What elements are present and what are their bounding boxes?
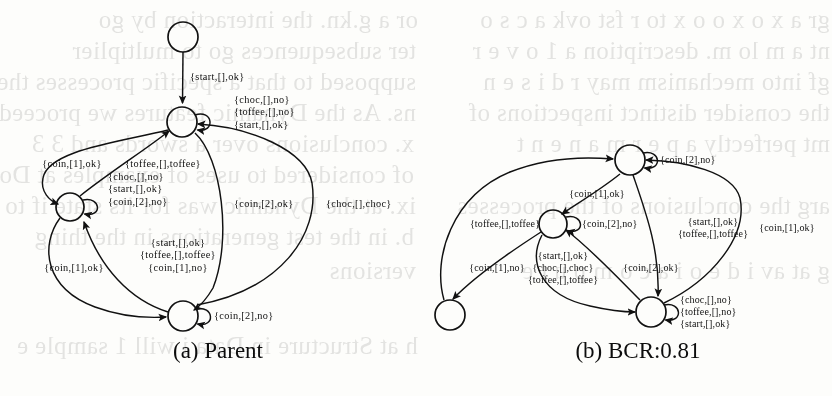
figure-caption-b: (b) BCR:0.81 <box>575 338 700 364</box>
transition-label-b-top-selfloop: {coin,[2],no} <box>660 154 715 166</box>
transition-label-b-coin1-ok-top: {coin,[1],ok} <box>569 188 624 200</box>
transition-label-b-coin2-ok: {coin,[2],ok} <box>623 262 678 274</box>
figure-page: or a g.kn. the interaction by goter subs… <box>0 0 832 396</box>
transition-label-line: {coin,[1],ok} <box>569 188 624 200</box>
transition-label-a-left-selfloop: {choc,[],no}{start,[],ok}{coin,[2],no} <box>108 171 168 208</box>
transition-label-line: {coin,[1],ok} <box>42 158 102 170</box>
transition-label-a-coin1-ok-lower: {coin,[1],ok} <box>44 262 104 274</box>
transition-label-b-start-toffee-right: {start,[],ok}{toffee,[],toffee} <box>678 216 748 240</box>
state-node-a-left <box>56 193 84 221</box>
transition-label-line: {choc,[],no} <box>108 171 168 183</box>
transition-label-line: {toffee,[],toffee} <box>140 250 216 262</box>
transition-label-line: {coin,[1],no} <box>140 262 216 274</box>
transition-label-b-middle-to-br: {start,[],ok}{choc,[],choc}{toffee,[],to… <box>528 250 598 286</box>
transition-label-a-coin2-ok: {coin,[2],ok} <box>234 198 294 210</box>
transition-label-line: {coin,[2],ok} <box>234 198 294 210</box>
transition-label-line: {toffee,[],toffee} <box>678 228 748 240</box>
transition-label-line: {choc,[],choc} <box>326 198 392 210</box>
transition-label-line: {toffee,[],toffee} <box>470 218 540 230</box>
transition-label-line: {coin,[2],ok} <box>623 262 678 274</box>
panel-b-nodes <box>435 145 666 330</box>
transition-label-b-coin1-ok-right: {coin,[1],ok} <box>759 222 814 234</box>
transition-label-line: {toffee,[],toffee} <box>528 274 598 286</box>
transition-label-b-toffee-toffee: {toffee,[],toffee} <box>470 218 540 230</box>
transition-label-a-toffee-toffee: {toffee,[],toffee} <box>125 158 201 170</box>
state-node-a-top <box>167 107 197 137</box>
transition-label-line: {coin,[2],no} <box>660 154 715 166</box>
state-node-b-top <box>615 145 645 175</box>
transition-label-line: {start,[],ok} <box>678 216 748 228</box>
transition-label-line: {choc,[],no} <box>680 294 737 306</box>
transition-label-line: {start,[],ok} <box>140 237 216 249</box>
transition-label-line: {choc,[],no} <box>234 94 295 106</box>
transition-label-b-middle-selfloop: {coin,[2],no} <box>582 218 637 230</box>
transition-label-a-bottom-selfloop: {coin,[2],no} <box>214 310 274 322</box>
transition-label-line: {coin,[1],ok} <box>44 262 104 274</box>
transition-label-a-top-selfloop: {choc,[],no}{toffee,[],no}{start,[],ok} <box>234 94 295 131</box>
edge-a-bottom-to-top <box>197 124 313 305</box>
edge-b-middle-selfloop <box>566 217 580 232</box>
transition-label-line: {toffee,[],toffee} <box>125 158 201 170</box>
state-node-b-middle <box>539 210 567 238</box>
state-node-b-bottomright <box>636 297 666 327</box>
edge-a-left-selfloop <box>83 200 97 215</box>
transition-label-line: {start,[],ok} <box>190 71 244 83</box>
transition-label-line: {coin,[2],no} <box>108 196 168 208</box>
edge-a-start-to-top <box>183 52 184 103</box>
state-node-b-bottomleft <box>435 300 465 330</box>
figure-caption-a: (a) Parent <box>173 338 263 364</box>
transition-label-line: {coin,[1],ok} <box>759 222 814 234</box>
transition-label-line: {coin,[2],no} <box>214 310 274 322</box>
transition-label-b-br-selfloop: {choc,[],no}{toffee,[],no}{start,[],ok} <box>680 294 737 330</box>
transition-label-line: {toffee,[],no} <box>234 107 295 119</box>
transition-label-line: {coin,[2],no} <box>582 218 637 230</box>
transition-label-line: {start,[],ok} <box>234 119 295 131</box>
transition-label-line: {toffee,[],no} <box>680 306 737 318</box>
transition-label-line: {start,[],ok} <box>528 250 598 262</box>
state-node-a-start <box>168 22 198 52</box>
transition-label-line: {coin,[1],no} <box>469 262 524 274</box>
transition-label-a-left-to-bottom: {start,[],ok}{toffee,[],toffee}{coin,[1]… <box>140 237 216 274</box>
state-node-a-bottom <box>168 301 198 331</box>
transition-label-line: {start,[],ok} <box>680 318 737 330</box>
transition-label-line: {start,[],ok} <box>108 184 168 196</box>
panel-a-edges <box>42 52 313 324</box>
transition-label-a-coin1-ok-upper: {coin,[1],ok} <box>42 158 102 170</box>
transition-label-line: {choc,[],choc} <box>528 262 598 274</box>
transition-label-a-start-ok: {start,[],ok} <box>190 71 244 83</box>
transition-label-b-coin1-no: {coin,[1],no} <box>469 262 524 274</box>
edge-b-top-to-bottomright <box>633 175 658 296</box>
transition-label-a-choc-choc: {choc,[],choc} <box>326 198 392 210</box>
